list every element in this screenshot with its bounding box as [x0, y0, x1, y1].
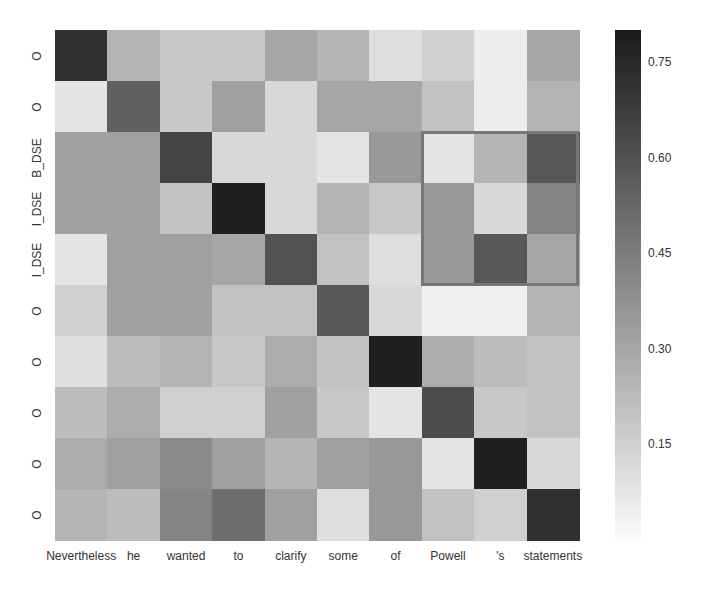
heatmap-cell: [55, 285, 108, 337]
heatmap-cell: [474, 438, 527, 490]
heatmap-cell: [107, 285, 160, 337]
heatmap-cell: [265, 132, 318, 184]
heatmap-grid: [55, 30, 579, 540]
heatmap-cell: [422, 438, 475, 490]
heatmap-cell: [212, 489, 265, 541]
colorbar-tick-label: 0.30: [648, 342, 671, 356]
heatmap-cell: [107, 81, 160, 133]
heatmap-cell: [212, 438, 265, 490]
heatmap-cell: [55, 387, 108, 439]
heatmap-cell: [474, 387, 527, 439]
heatmap-cell: [527, 81, 580, 133]
heatmap-cell: [369, 132, 422, 184]
heatmap-cell: [527, 183, 580, 235]
heatmap-cell: [527, 30, 580, 82]
y-tick-label: B_DSE: [30, 138, 44, 177]
heatmap-cell: [107, 234, 160, 286]
heatmap-cell: [160, 234, 213, 286]
heatmap-cell: [317, 285, 370, 337]
heatmap-cell: [317, 336, 370, 388]
heatmap-cell: [369, 183, 422, 235]
y-tick-label: O: [30, 459, 44, 468]
y-tick-label: O: [30, 357, 44, 366]
heatmap-cell: [422, 81, 475, 133]
heatmap-cell: [527, 387, 580, 439]
heatmap-cell: [212, 285, 265, 337]
heatmap-cell: [160, 30, 213, 82]
heatmap-cell: [160, 336, 213, 388]
heatmap-cell: [55, 132, 108, 184]
heatmap-cell: [474, 183, 527, 235]
x-tick-label: of: [391, 549, 401, 563]
heatmap-cell: [265, 183, 318, 235]
heatmap-cell: [265, 81, 318, 133]
heatmap-cell: [107, 387, 160, 439]
x-tick-label: statements: [523, 549, 582, 563]
heatmap-cell: [265, 489, 318, 541]
heatmap-cell: [369, 285, 422, 337]
heatmap-cell: [474, 489, 527, 541]
heatmap-cell: [265, 336, 318, 388]
heatmap-cell: [369, 81, 422, 133]
heatmap-cell: [527, 336, 580, 388]
heatmap-cell: [55, 81, 108, 133]
heatmap-cell: [107, 336, 160, 388]
y-tick-label: O: [30, 306, 44, 315]
heatmap-cell: [212, 336, 265, 388]
heatmap-cell: [107, 183, 160, 235]
heatmap-cell: [317, 438, 370, 490]
heatmap-cell: [55, 183, 108, 235]
heatmap-cell: [107, 132, 160, 184]
heatmap-cell: [317, 489, 370, 541]
y-tick-label: O: [30, 51, 44, 60]
y-tick-label: I_DSE: [30, 191, 44, 226]
y-tick-label: I_DSE: [30, 242, 44, 277]
colorbar-tick-label: 0.45: [648, 246, 671, 260]
heatmap-cell: [474, 336, 527, 388]
heatmap-cell: [527, 132, 580, 184]
heatmap-cell: [527, 489, 580, 541]
heatmap-cell: [369, 30, 422, 82]
x-tick-label: 's: [496, 549, 504, 563]
heatmap-cell: [422, 183, 475, 235]
heatmap-cell: [317, 81, 370, 133]
heatmap-cell: [212, 183, 265, 235]
heatmap-cell: [265, 234, 318, 286]
heatmap-cell: [422, 336, 475, 388]
heatmap-cell: [160, 387, 213, 439]
heatmap-cell: [369, 387, 422, 439]
heatmap-cell: [422, 234, 475, 286]
heatmap-cell: [212, 81, 265, 133]
heatmap-cell: [369, 438, 422, 490]
heatmap-cell: [55, 234, 108, 286]
heatmap-cell: [317, 387, 370, 439]
colorbar-tick-label: 0.15: [648, 437, 671, 451]
y-tick-label: O: [30, 510, 44, 519]
heatmap-cell: [212, 234, 265, 286]
heatmap-cell: [317, 183, 370, 235]
x-tick-label: to: [233, 549, 243, 563]
x-tick-label: wanted: [167, 549, 206, 563]
x-tick-label: Nevertheless: [46, 549, 116, 563]
heatmap-cell: [422, 285, 475, 337]
heatmap-cell: [107, 30, 160, 82]
heatmap-cell: [422, 489, 475, 541]
heatmap-cell: [369, 234, 422, 286]
heatmap-cell: [55, 30, 108, 82]
colorbar-tick-label: 0.75: [648, 55, 671, 69]
heatmap-cell: [160, 183, 213, 235]
heatmap-cell: [107, 489, 160, 541]
heatmap-cell: [474, 234, 527, 286]
heatmap-cell: [474, 30, 527, 82]
y-tick-label: O: [30, 102, 44, 111]
heatmap-cell: [107, 438, 160, 490]
heatmap-cell: [422, 132, 475, 184]
heatmap-cell: [160, 285, 213, 337]
heatmap-cell: [265, 285, 318, 337]
heatmap-cell: [265, 387, 318, 439]
heatmap-cell: [55, 336, 108, 388]
heatmap-cell: [474, 132, 527, 184]
heatmap-cell: [160, 132, 213, 184]
heatmap-cell: [160, 489, 213, 541]
colorbar-tick-label: 0.60: [648, 151, 671, 165]
